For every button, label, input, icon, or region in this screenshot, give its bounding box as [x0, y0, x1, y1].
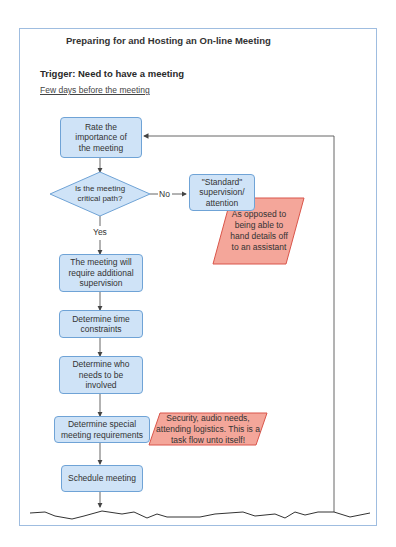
step-label: Determine time constraints [69, 314, 133, 335]
step-label: Rate the importance of the meeting [70, 122, 132, 154]
edge-label-yes: Yes [93, 227, 107, 237]
step-rate-importance[interactable]: Rate the importance of the meeting [60, 117, 142, 158]
note-text: Security, audio needs, attending logisti… [156, 413, 260, 446]
torn-edge [30, 511, 370, 519]
note-assistant: As opposed to being able to hand details… [222, 199, 296, 263]
step-label: Is the meeting critical path? [69, 184, 131, 204]
edge-label-no: No [159, 189, 170, 199]
step-time-constraints[interactable]: Determine time constraints [59, 310, 143, 338]
step-schedule-meeting[interactable]: Schedule meeting [61, 465, 143, 492]
decision-critical-path[interactable]: Is the meeting critical path? [60, 181, 140, 207]
step-additional-supervision[interactable]: The meeting will require additional supe… [59, 254, 143, 292]
note-task-flow: Security, audio needs, attending logisti… [152, 414, 264, 444]
note-text: As opposed to being able to hand details… [228, 209, 290, 253]
step-special-requirements[interactable]: Determine special meeting requirements [54, 416, 150, 443]
step-label: The meeting will require additional supe… [63, 257, 139, 289]
step-label: Schedule meeting [68, 473, 136, 484]
step-label: Determine special meeting requirements [56, 419, 148, 440]
step-who-involved[interactable]: Determine who needs to be involved [59, 356, 143, 394]
step-label: Determine who needs to be involved [69, 359, 133, 391]
